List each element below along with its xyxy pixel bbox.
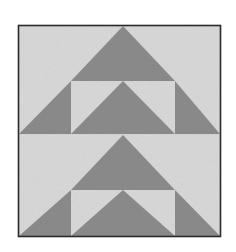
quilt-fabric bbox=[19, 26, 220, 236]
quilt-block-image bbox=[0, 0, 236, 252]
